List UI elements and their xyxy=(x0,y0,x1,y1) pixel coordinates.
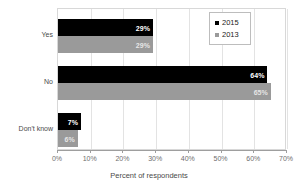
x-tick xyxy=(253,150,254,153)
gridline xyxy=(287,9,288,149)
chart-legend: 2015 2013 xyxy=(209,12,251,45)
x-tick xyxy=(286,150,287,153)
x-tick xyxy=(90,150,91,153)
x-tick-label: 60% xyxy=(246,155,260,162)
legend-label-2015: 2015 xyxy=(222,19,239,27)
legend-label-2013: 2013 xyxy=(222,31,239,39)
x-tick xyxy=(155,150,156,153)
y-axis-label-no: No xyxy=(44,78,53,85)
square-marker-black-icon xyxy=(215,21,219,25)
x-tick xyxy=(221,150,222,153)
bar-2015-no[interactable]: 64% xyxy=(58,66,267,83)
bar-value-label: 64% xyxy=(250,71,264,78)
x-tick xyxy=(57,150,58,153)
x-axis-title: Percent of respondents xyxy=(0,172,298,180)
bar-2013-don-t-know[interactable]: 6% xyxy=(58,130,78,147)
x-tick-label: 30% xyxy=(148,155,162,162)
bar-chart: 29%29%64%65%7%6% YesNoDon't know 0%10%20… xyxy=(0,0,298,190)
legend-item-2015[interactable]: 2015 xyxy=(215,17,250,29)
plot-area: 29%29%64%65%7%6% xyxy=(57,8,286,150)
bar-2015-don-t-know[interactable]: 7% xyxy=(58,113,81,130)
y-axis-label-don-t-know: Don't know xyxy=(19,125,53,132)
bar-value-label: 29% xyxy=(136,24,150,31)
y-axis-label-yes: Yes xyxy=(42,31,53,38)
bar-2013-yes[interactable]: 29% xyxy=(58,36,153,53)
bar-value-label: 65% xyxy=(254,88,268,95)
legend-item-2013[interactable]: 2013 xyxy=(215,29,250,41)
bar-value-label: 7% xyxy=(68,118,78,125)
x-tick xyxy=(188,150,189,153)
bar-value-label: 29% xyxy=(136,41,150,48)
bar-2015-yes[interactable]: 29% xyxy=(58,19,153,36)
x-tick-label: 20% xyxy=(115,155,129,162)
x-axis-line xyxy=(57,150,286,151)
x-tick-label: 10% xyxy=(83,155,97,162)
bar-group-no: 64%65% xyxy=(58,66,285,100)
bar-value-label: 6% xyxy=(65,135,75,142)
x-tick-label: 40% xyxy=(181,155,195,162)
x-tick xyxy=(122,150,123,153)
square-marker-gray-icon xyxy=(215,33,219,37)
bar-group-don-t-know: 7%6% xyxy=(58,113,285,147)
x-tick-label: 70% xyxy=(279,155,293,162)
x-tick-label: 0% xyxy=(52,155,62,162)
x-tick-label: 50% xyxy=(214,155,228,162)
bar-2013-no[interactable]: 65% xyxy=(58,83,271,100)
